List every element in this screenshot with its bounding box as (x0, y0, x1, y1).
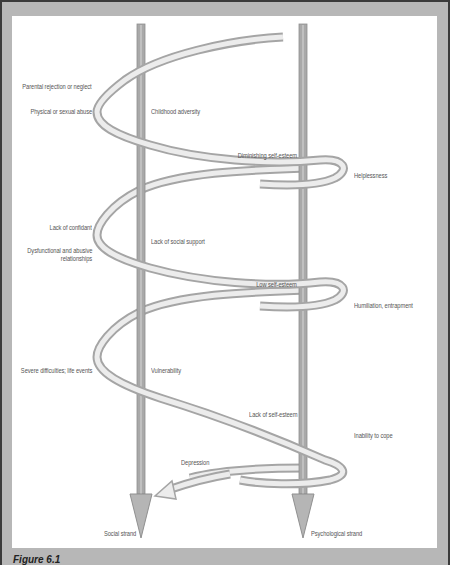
label-social-strand: Social strand (104, 530, 136, 538)
label-psychological-strand: Psychological strand (311, 530, 362, 538)
label-parental-rejection: Parental rejection or neglect (23, 83, 92, 91)
social-strand-arrow (130, 24, 152, 538)
label-dysfunctional-2: relationships (61, 255, 92, 263)
label-depression: Depression (181, 459, 209, 467)
label-humiliation: Humiliation, entrapment (354, 302, 413, 310)
label-lack-social-support: Lack of social support (151, 238, 205, 246)
label-helplessness: Helplessness (354, 172, 387, 180)
label-childhood-adversity: Childhood adversity (151, 108, 200, 116)
label-severe-difficulties: Severe difficulties; life events (21, 367, 92, 375)
figure-caption: Figure 6.1 (13, 554, 60, 565)
label-vulnerability: Vulnerability (151, 367, 181, 375)
label-lack-of-confidant: Lack of confidant (50, 224, 92, 232)
label-lack-of-self-esteem: Lack of self-esteem (249, 411, 297, 419)
label-low-self-esteem: Low self-esteem (256, 281, 297, 289)
depression-arrowhead (155, 481, 176, 499)
label-physical-abuse: Physical or sexual abuse (30, 108, 92, 116)
ribbon-back (97, 168, 305, 478)
label-inability-to-cope: Inability to cope (354, 432, 393, 440)
label-diminishing-self-esteem: Diminishing self-esteem (238, 152, 297, 160)
